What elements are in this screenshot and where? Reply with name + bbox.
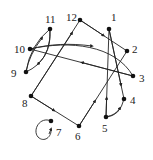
node-6 bbox=[77, 124, 82, 129]
edge-10-3 bbox=[30, 45, 133, 76]
label-10: 10 bbox=[14, 43, 26, 55]
edge-5-4 bbox=[106, 99, 124, 117]
node-3 bbox=[131, 74, 136, 79]
label-12: 12 bbox=[66, 11, 77, 23]
node-12 bbox=[78, 18, 83, 23]
node-10 bbox=[28, 47, 33, 52]
edges bbox=[26, 20, 133, 139]
node-7 bbox=[49, 119, 54, 124]
label-7: 7 bbox=[56, 126, 62, 138]
node-9 bbox=[24, 70, 29, 75]
node-11 bbox=[48, 27, 53, 32]
edge-7-7 bbox=[36, 120, 51, 139]
node-4 bbox=[122, 97, 127, 102]
label-2: 2 bbox=[132, 43, 138, 55]
node-1 bbox=[107, 27, 112, 32]
label-8: 8 bbox=[22, 97, 28, 109]
node-5 bbox=[104, 115, 109, 120]
directed-graph: 1 2 3 4 5 6 7 8 9 10 11 12 bbox=[0, 0, 153, 160]
label-11: 11 bbox=[45, 13, 56, 25]
node-2 bbox=[125, 49, 130, 54]
label-4: 4 bbox=[130, 94, 136, 106]
label-9: 9 bbox=[11, 67, 17, 79]
label-5: 5 bbox=[102, 122, 108, 134]
label-3: 3 bbox=[139, 72, 145, 84]
node-labels: 1 2 3 4 5 6 7 8 9 10 11 12 bbox=[11, 11, 145, 142]
node-8 bbox=[29, 94, 34, 99]
label-1: 1 bbox=[111, 11, 117, 23]
label-6: 6 bbox=[75, 130, 81, 142]
